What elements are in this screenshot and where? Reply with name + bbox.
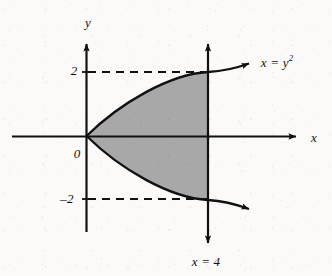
x-axis-label: x (311, 131, 317, 144)
figure-canvas: y x 2 –2 0 x = y2 x = 4 (0, 0, 332, 276)
graph-svg (0, 0, 332, 276)
curve-label-parabola-text: x = y (261, 55, 289, 70)
origin-label: 0 (74, 147, 81, 160)
curve-label-parabola-exponent: 2 (289, 53, 294, 63)
curve-label-parabola: x = y2 (261, 56, 293, 69)
tick-label-y-neg2: –2 (60, 192, 73, 205)
tick-label-y-2: 2 (71, 64, 78, 77)
y-axis-label: y (85, 16, 91, 29)
curve-label-vertical-line: x = 4 (192, 255, 221, 268)
